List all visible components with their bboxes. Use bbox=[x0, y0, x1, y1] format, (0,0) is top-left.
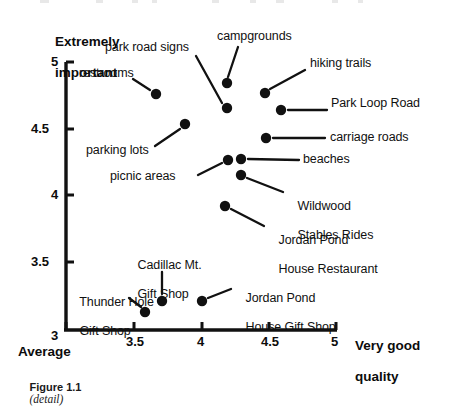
leader-beaches bbox=[248, 159, 299, 160]
data-point-park-road-signs bbox=[222, 78, 232, 88]
point-label-campgrounds: campgrounds bbox=[217, 29, 292, 44]
point-label-carriage-roads: carriage roads bbox=[330, 130, 409, 145]
point-label-restrooms: restrooms bbox=[79, 66, 134, 81]
point-label-thunder-line2: Gift Shop bbox=[80, 324, 131, 338]
point-label-cadillac-line1: Cadillac Mt. bbox=[138, 258, 202, 272]
data-point-restrooms bbox=[151, 89, 161, 99]
y-tick-label-5: 5 bbox=[51, 54, 58, 69]
x-axis-title-left: Average bbox=[18, 344, 71, 360]
leader-jordan-gift bbox=[208, 289, 231, 298]
x-axis-title-right-line2: quality bbox=[355, 369, 399, 384]
data-point-wildwood bbox=[236, 170, 246, 180]
point-label-jordan-restaurant-line1: Jordan Pond bbox=[279, 233, 349, 247]
leader-wildwood bbox=[247, 178, 283, 192]
point-label-thunder-line1: Thunder Hole bbox=[79, 295, 154, 309]
point-label-wildwood-line1: Wildwood bbox=[298, 199, 351, 213]
data-point-picnic-areas bbox=[223, 155, 233, 165]
data-point-jordan-restaurant bbox=[220, 201, 230, 211]
figure-caption-detail: (detail) bbox=[30, 393, 64, 405]
point-label-jordan-pond-house-gift-shop: Jordan Pond House Gift Shop bbox=[232, 276, 336, 349]
y-tick-label-3: 3 bbox=[51, 328, 58, 343]
leader-parking-lots bbox=[155, 129, 180, 146]
data-point-hiking-trails bbox=[260, 88, 270, 98]
data-point-beaches bbox=[236, 154, 246, 164]
leader-picnic-areas bbox=[198, 163, 222, 175]
point-label-picnic-areas: picnic areas bbox=[110, 169, 176, 184]
data-point-carriage-roads bbox=[261, 133, 271, 143]
data-point-parking-lots bbox=[180, 119, 190, 129]
y-tick-label-4: 4 bbox=[51, 187, 58, 202]
figure-caption: Figure 1.1 (detail) bbox=[18, 369, 81, 410]
y-tick-label-4-5: 4.5 bbox=[31, 121, 49, 136]
point-label-hiking-trails: hiking trails bbox=[310, 56, 371, 71]
data-point-campgrounds bbox=[222, 103, 232, 113]
point-label-jordan-gift-line2: House Gift Shop bbox=[246, 320, 336, 334]
leader-park-road-signs bbox=[196, 56, 222, 103]
leader-jordan-restaurant bbox=[231, 209, 264, 226]
point-label-beaches: beaches bbox=[303, 152, 350, 167]
scan-edge-artifact bbox=[40, 0, 363, 3]
point-label-jordan-restaurant-line2: House Restaurant bbox=[279, 262, 378, 276]
leader-campgrounds bbox=[228, 47, 238, 77]
point-label-parking-lots: parking lots bbox=[86, 143, 149, 158]
figure-caption-lead: Figure 1.1 bbox=[30, 381, 82, 393]
point-label-thunder-hole-gift-shop: Thunder Hole Gift Shop bbox=[66, 280, 154, 353]
data-point-park-loop-road bbox=[276, 105, 286, 115]
point-label-park-loop-road: Park Loop Road bbox=[331, 96, 420, 111]
x-axis-title-right: Very good quality bbox=[340, 322, 420, 400]
leader-hiking-trails bbox=[270, 70, 305, 89]
y-tick-label-3-5: 3.5 bbox=[31, 254, 49, 269]
x-tick-label-4: 4 bbox=[197, 334, 204, 349]
leader-restrooms bbox=[133, 79, 150, 90]
point-label-jordan-gift-line1: Jordan Pond bbox=[246, 291, 316, 305]
point-label-park-road-signs: park road signs bbox=[105, 40, 189, 55]
x-axis-title-right-line1: Very good bbox=[355, 338, 420, 353]
